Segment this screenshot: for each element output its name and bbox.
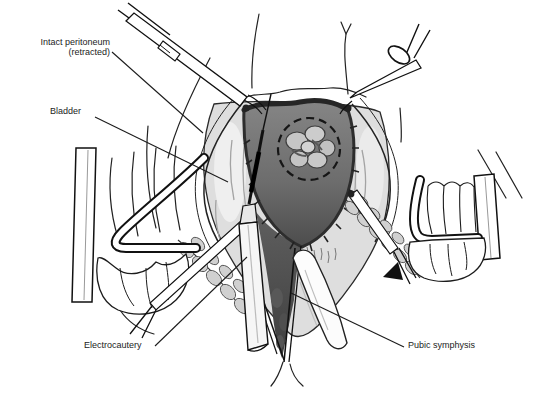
left-clamp [118, 3, 266, 114]
label-bladder: Bladder [50, 106, 81, 116]
label-electrocautery: Electrocautery [84, 340, 142, 350]
left-retractor [72, 148, 204, 314]
label-intact-peritoneum: Intact peritoneum (retracted) [15, 37, 110, 57]
electrocautery-hub [240, 204, 257, 224]
right-retractor [409, 174, 500, 281]
label-pubic-symphysis: Pubic symphysis [408, 340, 475, 350]
label-intact-peritoneum-line2: (retracted) [68, 47, 110, 57]
label-intact-peritoneum-line1: Intact peritoneum [40, 37, 110, 47]
right-clamp [340, 24, 430, 114]
tissue-bulge-right [409, 238, 486, 281]
surgical-illustration: Intact peritoneum (retracted) Bladder El… [0, 0, 533, 400]
left-retractor-handle [72, 148, 96, 302]
